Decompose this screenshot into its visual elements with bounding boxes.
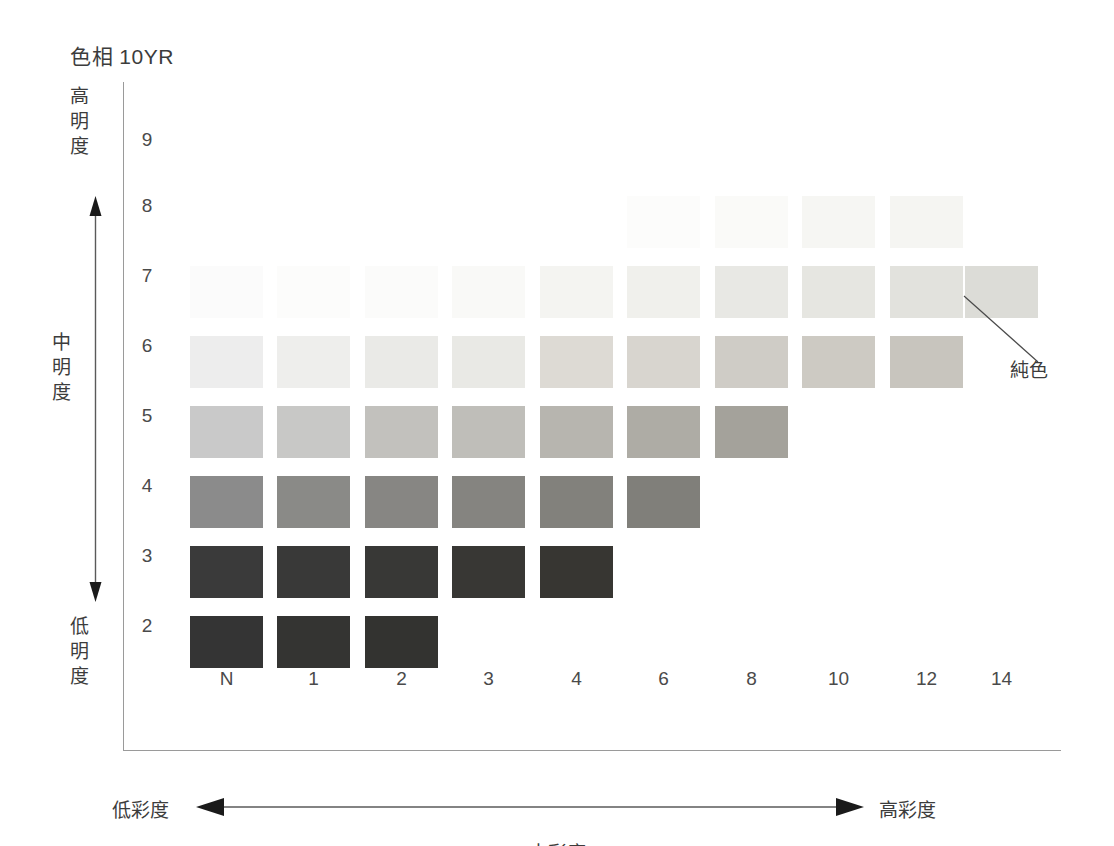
- swatch-v4-c3: [452, 476, 525, 528]
- swatch-v3-c4: [540, 546, 613, 598]
- swatch-v6-c3: [452, 336, 525, 388]
- y-axis-low-char: 低: [62, 614, 96, 639]
- swatch-v2-c1: [277, 616, 350, 668]
- y-axis-low-label: 低明度: [62, 614, 96, 689]
- x-tick-10: 10: [809, 668, 869, 690]
- swatch-v5-c3: [452, 406, 525, 458]
- swatch-v6-c2: [365, 336, 438, 388]
- swatch-v8-c8: [715, 196, 788, 248]
- swatch-v7-c6: [627, 266, 700, 318]
- swatch-v3-c1: [277, 546, 350, 598]
- swatch-v7-c10: [802, 266, 875, 318]
- swatch-v4-c2: [365, 476, 438, 528]
- x-tick-1: 1: [284, 668, 344, 690]
- swatch-v5-c2: [365, 406, 438, 458]
- swatch-v8-c10: [802, 196, 875, 248]
- y-axis-line: [123, 82, 124, 750]
- chroma-high-label: 高彩度: [879, 795, 936, 822]
- y-axis-low-char: 明: [62, 639, 96, 664]
- y-tick-6: 6: [134, 335, 160, 357]
- swatch-v5-c1: [277, 406, 350, 458]
- y-axis-mid-char: 度: [48, 380, 74, 405]
- swatch-v7-c8: [715, 266, 788, 318]
- y-axis-high-char: 高: [62, 84, 96, 109]
- y-axis-mid-char: 明: [48, 355, 74, 380]
- y-tick-7: 7: [134, 265, 160, 287]
- x-tick-3: 3: [459, 668, 519, 690]
- y-tick-3: 3: [134, 545, 160, 567]
- y-tick-8: 8: [134, 195, 160, 217]
- horizontal-double-arrow-icon: [196, 798, 864, 816]
- x-tick-6: 6: [634, 668, 694, 690]
- swatch-v5-c4: [540, 406, 613, 458]
- x-tick-8: 8: [722, 668, 782, 690]
- swatch-v3-c2: [365, 546, 438, 598]
- swatch-v6-c4: [540, 336, 613, 388]
- swatch-v6-c12: [890, 336, 963, 388]
- swatch-v4-c6: [627, 476, 700, 528]
- vertical-double-arrow-icon: [89, 196, 102, 602]
- swatch-v5-c8: [715, 406, 788, 458]
- y-axis-high-char: 明: [62, 109, 96, 134]
- swatch-v2-c2: [365, 616, 438, 668]
- swatch-v3-cN: [190, 546, 263, 598]
- swatch-v7-c1: [277, 266, 350, 318]
- swatch-v4-cN: [190, 476, 263, 528]
- y-axis-mid-char: 中: [48, 330, 74, 355]
- x-tick-14: 14: [972, 668, 1032, 690]
- swatch-v4-c4: [540, 476, 613, 528]
- x-axis-line: [123, 750, 1061, 751]
- swatch-v7-c14: [965, 266, 1038, 318]
- swatch-v6-c1: [277, 336, 350, 388]
- swatch-v5-c6: [627, 406, 700, 458]
- swatch-v3-c3: [452, 546, 525, 598]
- tone-chart-page: 色相 10YR 高明度 中明度 低明度 98765432 N1234681012…: [0, 0, 1114, 846]
- swatch-v7-c4: [540, 266, 613, 318]
- y-tick-4: 4: [134, 475, 160, 497]
- y-tick-5: 5: [134, 405, 160, 427]
- swatch-v2-cN: [190, 616, 263, 668]
- chroma-mid-label: 中彩度: [0, 838, 1114, 846]
- swatch-v6-c8: [715, 336, 788, 388]
- swatch-v6-cN: [190, 336, 263, 388]
- x-tick-4: 4: [547, 668, 607, 690]
- pure-color-annotation-label: 純色: [1010, 355, 1048, 382]
- x-tick-12: 12: [897, 668, 957, 690]
- swatch-v7-cN: [190, 266, 263, 318]
- page-title: 色相 10YR: [70, 40, 174, 70]
- x-tick-N: N: [197, 668, 257, 690]
- swatch-v7-c12: [890, 266, 963, 318]
- y-tick-2: 2: [134, 615, 160, 637]
- swatch-v4-c1: [277, 476, 350, 528]
- y-tick-9: 9: [134, 129, 160, 151]
- swatch-v6-c6: [627, 336, 700, 388]
- swatch-v6-c10: [802, 336, 875, 388]
- swatch-v7-c3: [452, 266, 525, 318]
- x-tick-2: 2: [372, 668, 432, 690]
- y-axis-low-char: 度: [62, 664, 96, 689]
- swatch-v7-c2: [365, 266, 438, 318]
- swatch-v8-c6: [627, 196, 700, 248]
- y-axis-high-char: 度: [62, 134, 96, 159]
- swatch-v5-cN: [190, 406, 263, 458]
- swatch-v8-c12: [890, 196, 963, 248]
- y-axis-mid-label: 中明度: [48, 330, 74, 405]
- chroma-low-label: 低彩度: [112, 795, 169, 822]
- y-axis-high-label: 高明度: [62, 84, 96, 159]
